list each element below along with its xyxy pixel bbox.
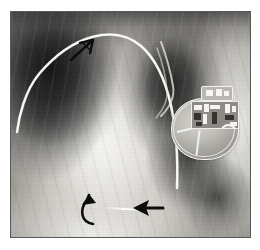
radiograph-figure [0, 0, 260, 250]
circuit-chip-5 [210, 105, 220, 109]
circuit-chip-4 [203, 114, 207, 124]
circuit-chip-2 [204, 104, 209, 112]
circuit-chip-6 [212, 112, 217, 124]
header-pin-1 [206, 90, 213, 96]
pacemaker-generator [171, 86, 239, 160]
pacing-lead-second-b [156, 48, 167, 118]
device-header [201, 86, 233, 101]
arrow-straight-lower [123, 195, 167, 221]
xray-film [11, 12, 250, 237]
circuit-chip-8 [225, 115, 234, 120]
circuit-chip-7 [225, 104, 230, 113]
circuit-chip-11 [196, 122, 202, 126]
arrow-curved-lower [73, 188, 107, 228]
header-pin-3 [224, 91, 229, 96]
header-pin-2 [216, 89, 222, 96]
xray-frame [10, 11, 251, 238]
circuit-chip-1 [194, 105, 202, 110]
arrow-upper-lead [67, 34, 107, 68]
circuit-chip-9 [232, 106, 236, 112]
device-circuitry [191, 101, 239, 129]
circuit-chip-3 [194, 113, 201, 120]
